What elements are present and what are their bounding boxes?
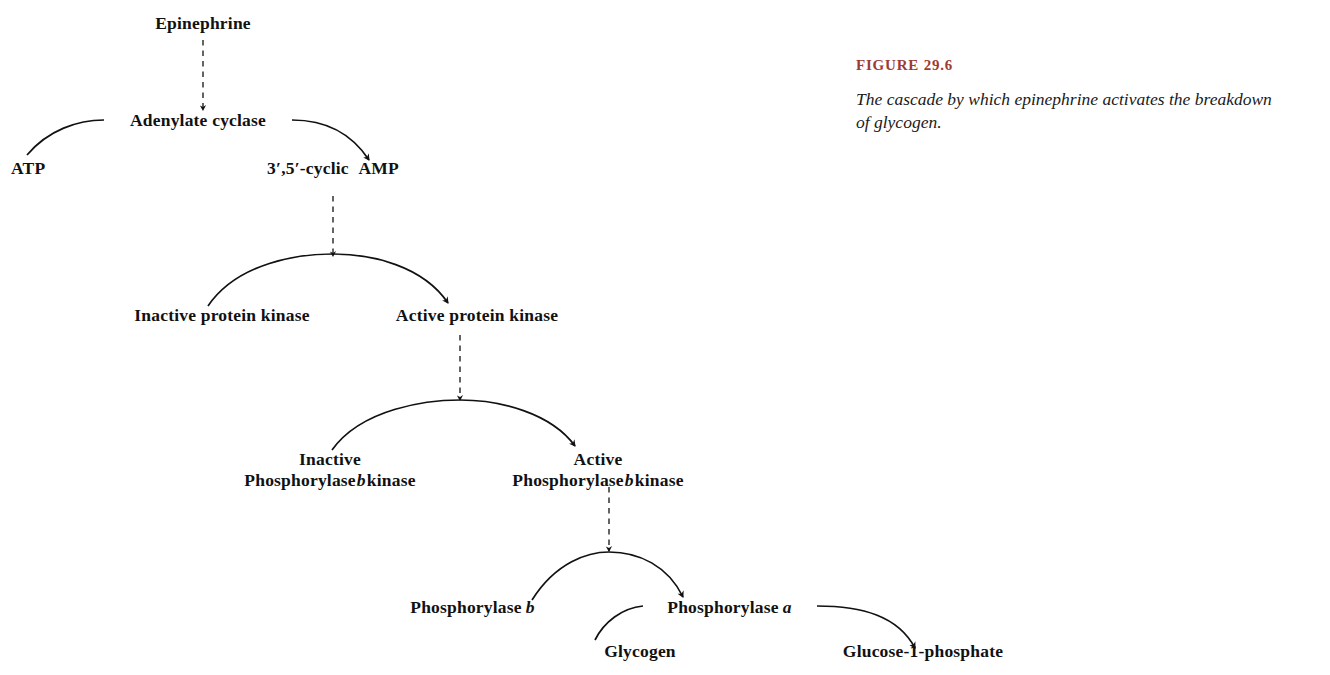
node-phosphorylase-b: Phosphorylaseb	[410, 597, 535, 618]
node-atp: ATP	[11, 158, 45, 179]
arc-atp-to-adenylate-cyclase	[27, 120, 104, 155]
active-phos-b-kinase-line1: Active	[512, 449, 683, 470]
figure-caption-text: The cascade by which epinephrine activat…	[856, 88, 1286, 134]
active-phos-b-kinase-line2-a: Phosphorylase	[512, 470, 624, 490]
active-phos-b-kinase-line2-b: kinase	[635, 470, 684, 490]
inactive-phos-b-kinase-line2-b: kinase	[367, 470, 416, 490]
active-phos-b-kinase-italic: b	[624, 470, 635, 490]
arc-glycogen-to-phosphorylase-a	[595, 606, 643, 640]
node-epinephrine: Epinephrine	[155, 13, 251, 34]
node-inactive-protein-kinase: Inactive protein kinase	[134, 305, 309, 326]
inactive-phos-b-kinase-line2: Phosphorylasebkinase	[244, 470, 415, 491]
inactive-phos-b-kinase-line2-a: Phosphorylase	[244, 470, 356, 490]
arc-phosphorylase-b-to-a	[532, 552, 683, 600]
phosphorylase-a-text: Phosphorylase	[667, 597, 779, 617]
active-phos-b-kinase-line2: Phosphorylasebkinase	[512, 470, 683, 491]
node-cyclic-amp: 3′,5′-cyclic AMP	[267, 158, 399, 179]
node-glycogen: Glycogen	[604, 641, 676, 662]
figure-caption-block: FIGURE 29.6 The cascade by which epineph…	[856, 57, 1286, 134]
arc-adenylate-cyclase-to-cyclic-amp	[292, 120, 369, 160]
figure-29-6: Epinephrine Adenylate cyclase ATP 3′,5′-…	[0, 0, 1330, 675]
node-glucose-1-phosphate: Glucose-1-phosphate	[843, 641, 1003, 662]
cyclic-amp-prefix: 3′,5′-cyclic	[267, 158, 349, 178]
node-adenylate-cyclase: Adenylate cyclase	[130, 110, 266, 131]
node-active-protein-kinase: Active protein kinase	[396, 305, 558, 326]
node-phosphorylase-a: Phosphorylasea	[667, 597, 792, 618]
phosphorylase-b-text: Phosphorylase	[410, 597, 522, 617]
node-active-phosphorylase-b-kinase: Active Phosphorylasebkinase	[512, 449, 683, 491]
figure-number-label: FIGURE 29.6	[856, 57, 1286, 74]
arc-inactive-to-active-protein-kinase	[208, 254, 448, 306]
arc-inactive-to-active-phos-b-kinase	[332, 400, 575, 450]
inactive-phos-b-kinase-italic: b	[356, 470, 367, 490]
inactive-phos-b-kinase-line1: Inactive	[244, 449, 415, 470]
cyclic-amp-suffix: AMP	[353, 158, 398, 178]
phosphorylase-a-italic: a	[779, 597, 793, 617]
node-inactive-phosphorylase-b-kinase: Inactive Phosphorylasebkinase	[244, 449, 415, 491]
phosphorylase-b-italic: b	[522, 597, 536, 617]
